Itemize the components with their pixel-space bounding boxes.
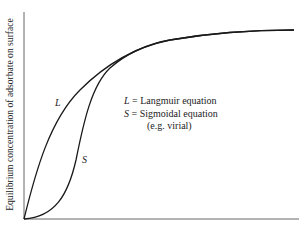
adsorption-isotherm-chart: Equilibrium concentration of adsorbate o… <box>0 0 307 229</box>
y-axis-label: Equilibrium concentration of adsorbate o… <box>0 0 18 229</box>
legend-row-langmuir: L = Langmuir equation <box>124 95 218 108</box>
curve-label-s: S <box>82 154 87 165</box>
legend: L = Langmuir equation S = Sigmoidal equa… <box>124 95 218 133</box>
curve-label-l: L <box>55 97 61 108</box>
legend-row-sigmoidal: S = Sigmoidal equation <box>124 108 218 121</box>
legend-row-sigmoidal-note: (e.g. virial) <box>124 120 218 133</box>
